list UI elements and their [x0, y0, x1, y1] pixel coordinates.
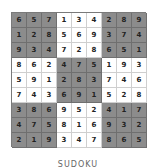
- sudoku-cell[interactable]: 7: [117, 28, 132, 43]
- sudoku-cell[interactable]: 8: [72, 73, 87, 88]
- sudoku-cell[interactable]: 1: [12, 28, 27, 43]
- sudoku-cell[interactable]: 8: [27, 103, 42, 118]
- sudoku-cell[interactable]: 8: [132, 88, 147, 103]
- sudoku-cell[interactable]: 9: [102, 118, 117, 133]
- sudoku-cell[interactable]: 7: [132, 103, 147, 118]
- sudoku-cell[interactable]: 2: [102, 13, 117, 28]
- sudoku-cell[interactable]: 3: [27, 43, 42, 58]
- sudoku-cell[interactable]: 6: [102, 43, 117, 58]
- sudoku-cell[interactable]: 7: [102, 73, 117, 88]
- sudoku-cell[interactable]: 9: [57, 103, 72, 118]
- sudoku-cell[interactable]: 2: [132, 118, 147, 133]
- sudoku-cell[interactable]: 1: [102, 58, 117, 73]
- sudoku-cell[interactable]: 1: [27, 133, 42, 148]
- sudoku-cell[interactable]: 2: [117, 88, 132, 103]
- sudoku-cell[interactable]: 4: [117, 73, 132, 88]
- sudoku-cell[interactable]: 5: [12, 73, 27, 88]
- sudoku-cell[interactable]: 5: [87, 58, 102, 73]
- sudoku-cell[interactable]: 1: [132, 43, 147, 58]
- sudoku-cell[interactable]: 1: [87, 88, 102, 103]
- sudoku-cell[interactable]: 2: [72, 43, 87, 58]
- sudoku-cell[interactable]: 3: [102, 28, 117, 43]
- sudoku-cell[interactable]: 2: [42, 58, 57, 73]
- sudoku-cell[interactable]: 9: [87, 28, 102, 43]
- sudoku-cell[interactable]: 5: [132, 133, 147, 148]
- sudoku-cell[interactable]: 5: [72, 103, 87, 118]
- sudoku-cell[interactable]: 9: [27, 73, 42, 88]
- sudoku-cell[interactable]: 6: [87, 118, 102, 133]
- sudoku-cell[interactable]: 1: [42, 73, 57, 88]
- sudoku-cell[interactable]: 3: [42, 88, 57, 103]
- sudoku-cell[interactable]: 6: [27, 58, 42, 73]
- sudoku-cell[interactable]: 3: [117, 118, 132, 133]
- sudoku-cell[interactable]: 4: [42, 43, 57, 58]
- sudoku-cell[interactable]: 3: [57, 133, 72, 148]
- sudoku-cell[interactable]: 9: [42, 133, 57, 148]
- sudoku-cell[interactable]: 3: [87, 73, 102, 88]
- sudoku-cell[interactable]: 6: [132, 73, 147, 88]
- sudoku-cell[interactable]: 6: [12, 13, 27, 28]
- sudoku-cell[interactable]: 2: [27, 28, 42, 43]
- sudoku-cell[interactable]: 9: [117, 58, 132, 73]
- sudoku-cell[interactable]: 7: [42, 13, 57, 28]
- sudoku-cell[interactable]: 5: [42, 118, 57, 133]
- sudoku-cell[interactable]: 4: [102, 103, 117, 118]
- sudoku-cell[interactable]: 8: [42, 28, 57, 43]
- sudoku-cell[interactable]: 7: [57, 43, 72, 58]
- sudoku-cell[interactable]: 2: [57, 73, 72, 88]
- sudoku-cell[interactable]: 1: [57, 13, 72, 28]
- sudoku-cell[interactable]: 9: [132, 13, 147, 28]
- sudoku-cell[interactable]: 4: [12, 118, 27, 133]
- sudoku-cell[interactable]: 3: [132, 58, 147, 73]
- sudoku-cell[interactable]: 1: [117, 103, 132, 118]
- sudoku-cell[interactable]: 7: [72, 58, 87, 73]
- sudoku-cell[interactable]: 1: [72, 118, 87, 133]
- sudoku-cell[interactable]: 2: [12, 133, 27, 148]
- sudoku-cell[interactable]: 8: [117, 13, 132, 28]
- sudoku-cell[interactable]: 5: [27, 13, 42, 28]
- sudoku-cell[interactable]: 7: [27, 118, 42, 133]
- sudoku-cell[interactable]: 4: [132, 28, 147, 43]
- sudoku-cell[interactable]: 6: [72, 28, 87, 43]
- sudoku-cell[interactable]: 7: [12, 88, 27, 103]
- sudoku-cell[interactable]: 8: [57, 118, 72, 133]
- sudoku-cell[interactable]: 8: [12, 58, 27, 73]
- sudoku-cell[interactable]: 4: [87, 13, 102, 28]
- sudoku-cell[interactable]: 8: [87, 43, 102, 58]
- sudoku-cell[interactable]: 5: [117, 43, 132, 58]
- sudoku-grid: 6571342891285693749347286518624751935912…: [11, 12, 146, 147]
- sudoku-cell[interactable]: 9: [72, 88, 87, 103]
- sudoku-cell[interactable]: 8: [102, 133, 117, 148]
- caption: SUDOKU: [0, 160, 156, 167]
- sudoku-cell[interactable]: 5: [102, 88, 117, 103]
- sudoku-cell[interactable]: 6: [117, 133, 132, 148]
- sudoku-cell[interactable]: 9: [12, 43, 27, 58]
- sudoku-cell[interactable]: 5: [57, 28, 72, 43]
- sudoku-cell[interactable]: 2: [87, 103, 102, 118]
- sudoku-cell[interactable]: 4: [72, 133, 87, 148]
- sudoku-cell[interactable]: 6: [57, 88, 72, 103]
- sudoku-cell[interactable]: 3: [72, 13, 87, 28]
- sudoku-cell[interactable]: 7: [87, 133, 102, 148]
- sudoku-cell[interactable]: 3: [12, 103, 27, 118]
- sudoku-cell[interactable]: 6: [42, 103, 57, 118]
- sudoku-cell[interactable]: 4: [27, 88, 42, 103]
- sudoku-cell[interactable]: 4: [57, 58, 72, 73]
